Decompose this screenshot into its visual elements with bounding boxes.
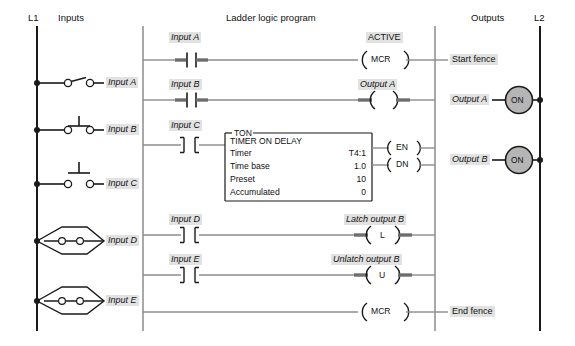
header-inputs: Inputs <box>58 12 84 23</box>
timer-row-1-value: 1.0 <box>330 161 366 171</box>
rung-2-output-label: Output A <box>358 79 397 90</box>
field-device-input-c <box>34 162 104 188</box>
rung-6 <box>143 303 435 321</box>
rung-2-contact-label: Input B <box>169 79 202 90</box>
field-device-input-d <box>34 227 104 254</box>
timer-title: TIMER ON DELAY <box>230 136 302 146</box>
ladder-logic-diagram: L1 Inputs Ladder logic program Outputs L… <box>0 0 575 346</box>
rung-4-coil-text: L <box>380 230 385 240</box>
field-label-input-e: Input E <box>106 295 139 306</box>
output-label-b: Output B <box>450 154 490 165</box>
rung-1-coil-text: MCR <box>371 54 391 64</box>
rung-4-output-label: Latch output B <box>344 214 406 225</box>
output-label-a: Output A <box>450 94 489 105</box>
rung-6-coil-text: MCR <box>371 306 391 316</box>
field-device-input-e <box>34 287 104 314</box>
output-b-lamp-state: ON <box>511 155 524 165</box>
header-outputs: Outputs <box>471 12 504 23</box>
output-label-start-fence: Start fence <box>450 54 498 65</box>
header-program: Ladder logic program <box>226 12 316 23</box>
timer-row-3-name: Accumulated <box>230 187 280 197</box>
field-label-input-c: Input C <box>106 178 139 189</box>
header-l2: L2 <box>534 12 545 23</box>
field-label-input-b: Input B <box>106 124 139 135</box>
rung-5-output-label: Unlatch output B <box>331 254 402 265</box>
field-label-input-d: Input D <box>106 235 139 246</box>
rung-2 <box>143 91 435 109</box>
timer-row-2-value: 10 <box>330 174 366 184</box>
timer-row-2-name: Preset <box>230 174 255 184</box>
timer-row-1-name: Time base <box>230 161 270 171</box>
field-device-input-a <box>34 78 104 87</box>
diagram-canvas <box>0 0 575 346</box>
header-l1: L1 <box>28 12 39 23</box>
rung-5 <box>143 266 435 284</box>
timer-row-0-name: Timer <box>230 148 252 158</box>
rung-5-coil-text: U <box>379 270 385 280</box>
timer-row-0-value: T4:1 <box>330 148 366 158</box>
rung-1-status-badge: ACTIVE <box>366 32 403 43</box>
field-label-input-a: Input A <box>106 77 138 88</box>
rung-4-contact-label: Input D <box>169 214 202 225</box>
rung-1-contact-label: Input A <box>169 32 201 43</box>
timer-row-3-value: 0 <box>330 187 366 197</box>
rung-4 <box>143 226 435 244</box>
field-device-input-b <box>34 116 104 134</box>
output-label-end-fence: End fence <box>450 306 495 317</box>
rung-5-contact-label: Input E <box>169 254 202 265</box>
timer-output-dn-label: DN <box>396 159 408 169</box>
rung-1 <box>143 51 435 69</box>
timer-output-en-label: EN <box>396 142 408 152</box>
rung-3-contact-label: Input C <box>169 120 202 131</box>
output-a-lamp-state: ON <box>511 95 524 105</box>
